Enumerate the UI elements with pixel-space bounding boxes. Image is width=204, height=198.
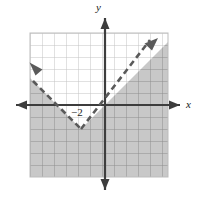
y-axis-arrow-down xyxy=(101,179,110,190)
x-axis-arrow-right xyxy=(169,101,180,110)
graph-figure: y x −2 xyxy=(0,0,204,198)
y-axis-label: y xyxy=(96,2,101,13)
x-axis-label: x xyxy=(186,99,191,110)
coordinate-plane-svg xyxy=(0,0,204,198)
vertex-value-label: −2 xyxy=(71,107,83,118)
x-axis-arrow-left xyxy=(16,101,27,110)
y-axis-arrow-up xyxy=(101,18,110,29)
